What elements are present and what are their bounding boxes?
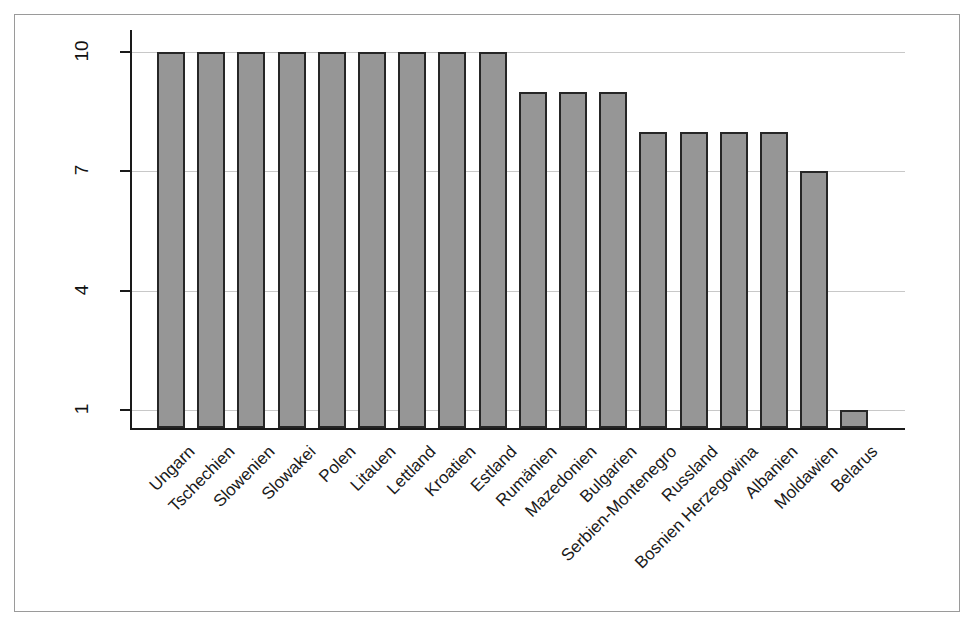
y-tick-label-10: 10 <box>71 31 93 71</box>
bar <box>680 132 708 428</box>
bar <box>519 92 547 428</box>
y-axis-line <box>130 30 132 430</box>
bar <box>720 132 748 428</box>
bar <box>318 52 346 428</box>
bar <box>559 92 587 428</box>
bar <box>639 132 667 428</box>
bar <box>237 52 265 428</box>
bar <box>157 52 185 428</box>
bar <box>438 52 466 428</box>
bar <box>358 52 386 428</box>
bar <box>398 52 426 428</box>
y-tick-label-1: 1 <box>71 389 93 429</box>
bar <box>479 52 507 428</box>
y-tick-label-4: 4 <box>71 270 93 310</box>
bar-chart-plot-area: 14710 UngarnTschechienSlowenienSlowakeiP… <box>0 0 977 631</box>
bar <box>197 52 225 428</box>
bar <box>278 52 306 428</box>
bar <box>760 132 788 428</box>
x-axis-line <box>130 428 905 430</box>
bar <box>599 92 627 428</box>
bar <box>840 410 868 428</box>
bar <box>800 171 828 428</box>
y-tick-label-7: 7 <box>71 150 93 190</box>
